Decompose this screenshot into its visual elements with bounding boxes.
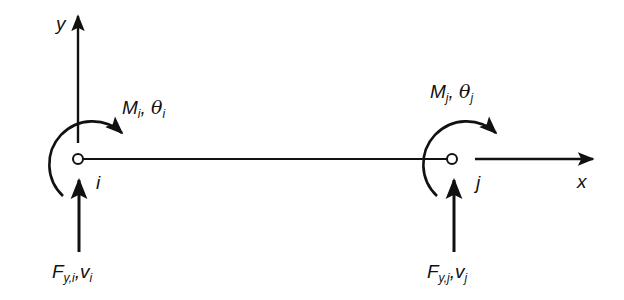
beam-element-diagram <box>0 0 624 300</box>
moment-symbol: M <box>122 97 138 118</box>
rotation-subscript: j <box>471 91 474 105</box>
displacement-symbol: v <box>80 261 90 282</box>
displacement-subscript: i <box>90 271 93 285</box>
displacement-symbol: v <box>455 261 465 282</box>
node-j-label: j <box>476 173 480 192</box>
x-axis-label: x <box>577 172 587 191</box>
rotation-symbol: θ <box>151 96 162 118</box>
node-i-label: i <box>96 173 100 192</box>
y-axis-label: y <box>56 14 66 33</box>
separator: , <box>449 81 460 102</box>
node-i-label-text: i <box>96 172 100 193</box>
node-j-label-text: j <box>476 172 480 193</box>
y-axis-label-text: y <box>56 13 66 34</box>
moment-i-label: Mi, θi <box>122 98 165 120</box>
force-symbol: F <box>427 261 439 282</box>
force-j-label: Fy,j,vj <box>427 262 467 284</box>
force-subscript: y,i <box>64 271 75 285</box>
moment-symbol: M <box>430 81 446 102</box>
rotation-subscript: i <box>163 107 166 121</box>
force-subscript: y,j <box>439 271 450 285</box>
node-j-circle <box>447 154 457 164</box>
force-symbol: F <box>52 261 64 282</box>
force-i-label: Fy,i,vi <box>52 262 92 284</box>
displacement-subscript: j <box>465 271 468 285</box>
x-axis-label-text: x <box>577 171 587 192</box>
node-i-circle <box>73 154 83 164</box>
moment-j-label: Mj, θj <box>430 82 473 104</box>
rotation-symbol: θ <box>459 80 470 102</box>
separator: , <box>141 97 152 118</box>
